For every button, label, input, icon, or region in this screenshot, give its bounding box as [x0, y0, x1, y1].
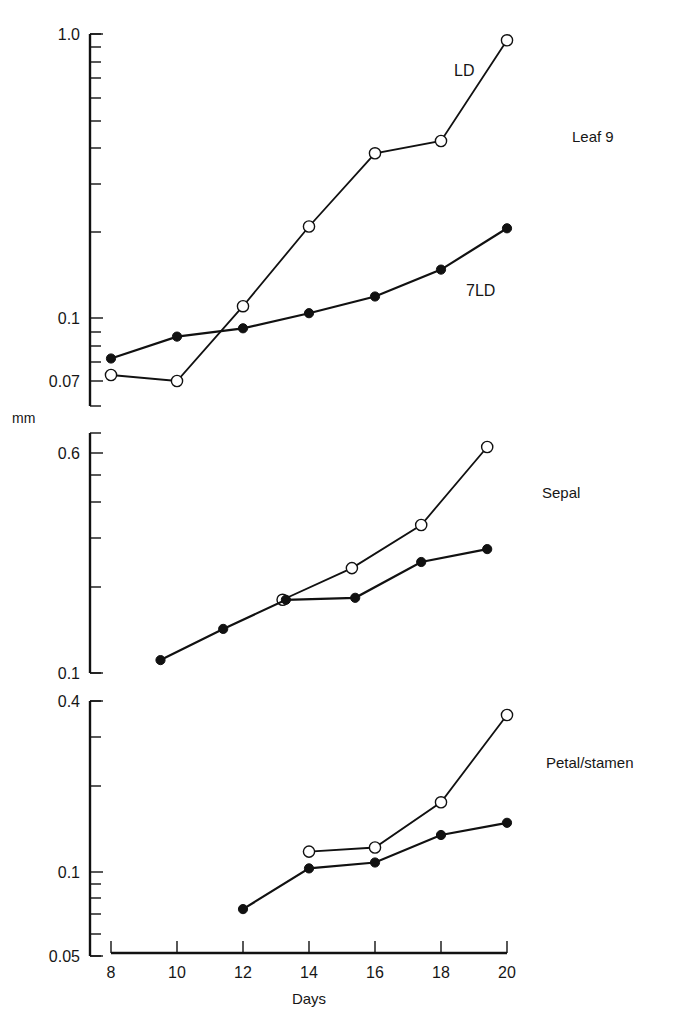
series-annotation-7ld: 7LD — [466, 282, 495, 299]
x-axis-label: Days — [292, 990, 326, 1007]
open-circle-marker-icon — [369, 148, 380, 159]
filled-circle-marker-icon — [370, 858, 379, 867]
panels: 1.00.10.07Leaf 9LD7LD0.60.1Sepal0.40.10.… — [49, 26, 634, 965]
x-axis: 8101214161820 — [107, 941, 516, 981]
filled-circle-marker-icon — [351, 593, 360, 602]
filled-circle-marker-icon — [156, 656, 165, 665]
y-tick-label: 0.07 — [49, 373, 80, 390]
y-tick-label: 0.6 — [58, 445, 80, 462]
series-line-ld — [309, 715, 507, 852]
open-circle-marker-icon — [237, 301, 248, 312]
y-tick-label: 0.1 — [58, 665, 80, 682]
filled-circle-marker-icon — [304, 309, 313, 318]
open-circle-marker-icon — [435, 797, 446, 808]
panel-petal-stamen: 0.40.10.05Petal/stamen — [49, 693, 634, 965]
open-circle-marker-icon — [171, 375, 182, 386]
open-circle-marker-icon — [501, 35, 512, 46]
figure: 1.00.10.07Leaf 9LD7LD0.60.1Sepal0.40.10.… — [0, 0, 685, 1034]
open-circle-marker-icon — [482, 441, 493, 452]
panel-title: Leaf 9 — [572, 128, 614, 145]
open-circle-marker-icon — [501, 709, 512, 720]
x-tick-label: 20 — [498, 964, 516, 981]
series-annotation-ld: LD — [454, 62, 474, 79]
filled-circle-marker-icon — [219, 624, 228, 633]
y-tick-label: 1.0 — [58, 26, 80, 43]
series-line-7ld — [111, 228, 507, 358]
open-circle-marker-icon — [303, 221, 314, 232]
panel-title: Sepal — [542, 484, 580, 501]
filled-circle-marker-icon — [304, 864, 313, 873]
open-circle-marker-icon — [303, 846, 314, 857]
series-line-7ld — [161, 549, 488, 660]
open-circle-marker-icon — [416, 519, 427, 530]
filled-circle-marker-icon — [483, 545, 492, 554]
x-tick-label: 16 — [366, 964, 384, 981]
open-circle-marker-icon — [105, 369, 116, 380]
x-tick-label: 8 — [107, 964, 116, 981]
chart-canvas: 1.00.10.07Leaf 9LD7LD0.60.1Sepal0.40.10.… — [0, 0, 685, 1034]
y-tick-label: 0.1 — [58, 864, 80, 881]
x-tick-label: 12 — [234, 964, 252, 981]
y-tick-label: 0.1 — [58, 310, 80, 327]
filled-circle-marker-icon — [172, 332, 181, 341]
filled-circle-marker-icon — [238, 324, 247, 333]
open-circle-marker-icon — [435, 135, 446, 146]
filled-circle-marker-icon — [502, 818, 511, 827]
open-circle-marker-icon — [369, 842, 380, 853]
y-unit-label: mm — [12, 410, 35, 426]
filled-circle-marker-icon — [370, 292, 379, 301]
y-tick-label: 0.05 — [49, 948, 80, 965]
filled-circle-marker-icon — [417, 557, 426, 566]
series-line-ld — [283, 447, 488, 600]
filled-circle-marker-icon — [502, 224, 511, 233]
filled-circle-marker-icon — [281, 595, 290, 604]
panel-sepal: 0.60.1Sepal — [58, 433, 581, 682]
series-line-ld — [111, 40, 507, 381]
x-tick-label: 18 — [432, 964, 450, 981]
open-circle-marker-icon — [346, 563, 357, 574]
filled-circle-marker-icon — [106, 354, 115, 363]
panel-title: Petal/stamen — [546, 754, 634, 771]
y-tick-label: 0.4 — [58, 693, 80, 710]
panel-leaf-9: 1.00.10.07Leaf 9LD7LD — [49, 26, 614, 406]
x-tick-label: 14 — [300, 964, 318, 981]
x-tick-label: 10 — [168, 964, 186, 981]
filled-circle-marker-icon — [436, 265, 445, 274]
filled-circle-marker-icon — [238, 905, 247, 914]
filled-circle-marker-icon — [436, 830, 445, 839]
